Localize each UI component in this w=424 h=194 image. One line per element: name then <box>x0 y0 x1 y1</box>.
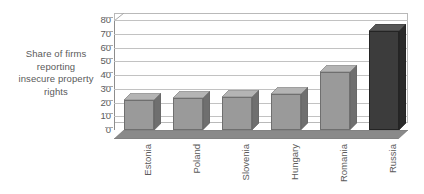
bar-side-face <box>399 24 406 130</box>
bar-front-face <box>222 97 252 130</box>
x-axis-label-hungary: Hungary <box>290 144 300 180</box>
bar-top-face <box>222 90 259 97</box>
bar-top-face <box>369 24 406 31</box>
x-axis-label-russia: Russia <box>388 144 398 173</box>
y-axis-tick-mark <box>105 86 113 87</box>
x-axis-label-poland: Poland <box>192 144 202 174</box>
gridline <box>114 48 408 49</box>
y-axis-tick-mark <box>105 127 113 128</box>
chart-floor <box>100 130 408 139</box>
bar-top-face <box>320 65 357 72</box>
bar-top-face <box>271 87 308 94</box>
bar-side-face <box>350 65 357 130</box>
y-axis-tick-mark <box>105 72 113 73</box>
gridline <box>114 34 408 35</box>
y-axis-tick-mark <box>105 31 113 32</box>
gridline <box>114 75 408 76</box>
bar-russia[interactable] <box>369 31 399 130</box>
gridline <box>114 61 408 62</box>
bar-front-face <box>320 72 350 130</box>
y-axis-tick-mark <box>105 17 113 18</box>
bar-top-face <box>124 93 161 100</box>
bar-chart: 01020304050607080EstoniaPolandSloveniaHu… <box>100 8 416 194</box>
y-axis-tick-mark <box>105 100 113 101</box>
bar-estonia[interactable] <box>124 100 154 130</box>
gridline <box>114 20 408 21</box>
y-axis-tick-mark <box>105 113 113 114</box>
bar-romania[interactable] <box>320 72 350 130</box>
y-axis-tick-mark <box>105 45 113 46</box>
y-axis-tick-mark <box>105 58 113 59</box>
bar-front-face <box>173 98 203 130</box>
bar-top-face <box>173 91 210 98</box>
gridline <box>114 89 408 90</box>
bar-slovenia[interactable] <box>222 97 252 130</box>
x-axis-label-estonia: Estonia <box>143 144 153 176</box>
x-axis-label-romania: Romania <box>339 144 349 182</box>
bar-hungary[interactable] <box>271 94 301 130</box>
bar-front-face <box>369 31 399 130</box>
x-axis-label-slovenia: Slovenia <box>241 144 251 180</box>
bar-front-face <box>124 100 154 130</box>
bar-front-face <box>271 94 301 130</box>
bar-poland[interactable] <box>173 98 203 130</box>
